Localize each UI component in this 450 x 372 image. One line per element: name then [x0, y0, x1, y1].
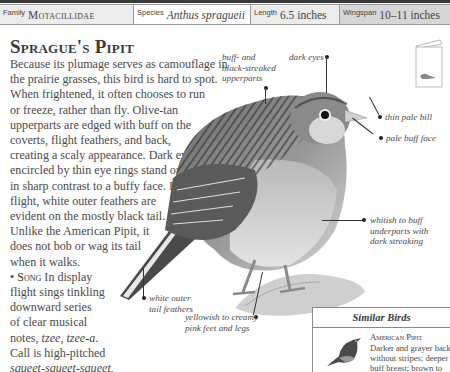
- page-title: Sprague's Pipit: [10, 36, 134, 58]
- length-cell: Length 6.5 inches: [251, 5, 340, 24]
- species-cell: Species Anthus spragueii: [134, 5, 251, 24]
- family-label: Family: [3, 8, 25, 17]
- description-line: without stripes; deeper: [370, 353, 450, 363]
- song-text: In display: [41, 270, 92, 284]
- wingspan-label: Wingspan: [343, 8, 376, 17]
- label-thin-bill: thin pale bill: [385, 112, 432, 123]
- species-info-bar: Family Motacillidae Species Anthus sprag…: [0, 4, 450, 25]
- label-dark-eyes: dark eyes: [289, 52, 324, 63]
- sprague-pipit-illustration: [115, 60, 375, 320]
- similar-bird-description: Darker and grayer back without stripes; …: [370, 343, 450, 372]
- song-text: ,: [111, 361, 114, 372]
- label-line: upperparts: [222, 73, 276, 84]
- label-line: dark streaking: [370, 236, 428, 247]
- description-line: Darker and grayer back: [370, 343, 450, 353]
- leader-line: [265, 88, 266, 104]
- similar-bird-name: American Pipit: [370, 332, 422, 342]
- wingspan-value: 10–11 inches: [379, 9, 440, 21]
- label-line: pink feet and legs: [185, 323, 258, 334]
- label-pale-face: pale buff face: [386, 133, 436, 144]
- american-pipit-thumbnail: [323, 334, 367, 368]
- similar-birds-heading: Similar Birds: [313, 308, 450, 328]
- leader-line: [322, 220, 364, 221]
- song-text: Call is high-pitched: [10, 346, 315, 361]
- label-tail: white outer tail feathers: [149, 293, 193, 314]
- label-line: yellowish to creamy: [185, 312, 258, 323]
- length-value: 6.5 inches: [280, 9, 327, 21]
- leader-line: [326, 57, 327, 93]
- similar-bird-item: American Pipit Darker and grayer back wi…: [313, 328, 450, 372]
- family-cell: Family Motacillidae: [0, 5, 134, 24]
- species-label: Species: [137, 8, 164, 17]
- label-underparts: whitish to buff underparts with dark str…: [370, 215, 428, 247]
- leader-dot: [142, 296, 146, 300]
- leader-dot: [362, 218, 366, 222]
- leader-dot: [378, 115, 382, 119]
- label-legs: yellowish to creamy pink feet and legs: [185, 312, 258, 333]
- bullet: •: [10, 270, 14, 284]
- label-upperparts: buff- and black-streaked upperparts: [222, 52, 276, 84]
- label-line: black-streaked: [222, 63, 276, 74]
- song-text: notes,: [10, 331, 42, 345]
- label-line: buff- and: [222, 52, 276, 63]
- song-heading: Song: [17, 270, 41, 284]
- song-text: .: [95, 331, 98, 345]
- similar-birds-panel: Similar Birds American Pipit Darker and …: [312, 307, 450, 372]
- label-line: white outer: [149, 293, 193, 304]
- song-text: squeet-squeet-squeet,: [10, 361, 315, 372]
- wingspan-cell: Wingspan 10–11 inches: [340, 5, 450, 24]
- label-line: whitish to buff: [370, 215, 428, 226]
- leader-dot: [379, 136, 383, 140]
- family-value: Motacillidae: [28, 9, 95, 21]
- description-line: buff breast; brown to: [370, 363, 450, 372]
- leader-line: [143, 268, 144, 297]
- call-notes: squeet-squeet-squeet: [10, 361, 111, 372]
- length-label: Length: [254, 8, 277, 17]
- species-value: Anthus spragueii: [167, 9, 245, 21]
- song-notes: tzee, tzee-a: [42, 331, 96, 345]
- field-guide-book-icon: [412, 38, 446, 90]
- song-text: notes, tzee, tzee-a.: [10, 331, 315, 346]
- label-line: underparts with: [370, 226, 428, 237]
- top-rule: [0, 0, 450, 3]
